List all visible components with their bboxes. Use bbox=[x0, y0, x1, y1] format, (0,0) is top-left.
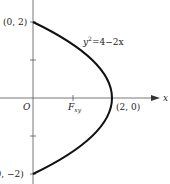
focus-label: Fxy bbox=[67, 102, 82, 114]
origin-label: O bbox=[23, 102, 31, 112]
point-label-vertex: (2, 0) bbox=[116, 102, 140, 112]
parabola-diagram: (0, 2) (2, 0) (0, −2) O x Fxy y2=4−2x bbox=[0, 0, 170, 184]
x-axis-label: x bbox=[163, 93, 168, 103]
x-axis-arrow-icon bbox=[151, 95, 160, 101]
point-label-bottom: (0, −2) bbox=[0, 169, 24, 179]
point-label-top: (0, 2) bbox=[3, 17, 27, 27]
equation-label: y2=4−2x bbox=[82, 35, 124, 47]
